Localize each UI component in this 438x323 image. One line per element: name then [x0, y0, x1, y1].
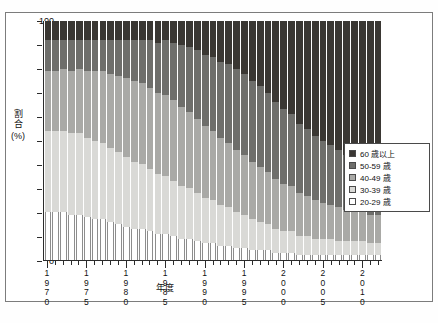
bar-1988	[186, 21, 193, 260]
bar-segment	[100, 219, 107, 260]
x-tick-mark	[347, 261, 348, 265]
bar-1995	[241, 21, 248, 260]
bar-segment	[225, 64, 232, 143]
x-tick-mark	[55, 261, 56, 265]
bar-segment	[249, 219, 256, 250]
bar-segment	[241, 215, 248, 248]
bar-segment	[233, 21, 240, 69]
bar-1994	[233, 21, 240, 260]
bar-segment	[320, 255, 327, 260]
x-tick-mark	[63, 261, 64, 265]
bar-segment	[359, 21, 366, 162]
bar-segment	[351, 210, 358, 241]
x-tick-digit: 5	[82, 298, 91, 308]
x-tick-digit: 5	[240, 298, 249, 308]
bar-segment	[170, 43, 177, 100]
bar-segment	[76, 133, 83, 214]
bar-2011	[367, 21, 374, 260]
bar-segment	[155, 93, 162, 174]
bar-segment	[375, 255, 382, 260]
bar-segment	[147, 88, 154, 169]
x-tick-mark	[331, 261, 332, 265]
bar-segment	[241, 74, 248, 155]
bar-segment	[123, 227, 130, 260]
x-tick-label: 1980	[121, 269, 130, 307]
bar-segment	[320, 21, 327, 141]
bar-segment	[257, 167, 264, 222]
bar-segment	[60, 21, 67, 40]
bar-segment	[147, 21, 154, 40]
x-tick-digit: 0	[358, 298, 367, 308]
bar-segment	[343, 21, 350, 155]
bar-segment	[100, 71, 107, 143]
bar-segment	[92, 141, 99, 220]
bar-segment	[296, 21, 303, 124]
legend-swatch-icon	[349, 198, 356, 205]
bar-segment	[115, 152, 122, 224]
x-tick-mark	[78, 261, 79, 265]
bar-segment	[139, 83, 146, 164]
bar-segment	[107, 222, 114, 260]
bottom-caption	[6, 310, 432, 323]
bar-segment	[68, 40, 75, 71]
bar-segment	[304, 129, 311, 196]
bar-segment	[84, 40, 91, 71]
x-tick-mark	[134, 261, 135, 265]
bar-segment	[170, 100, 177, 181]
x-tick-mark	[189, 261, 190, 265]
bar-segment	[288, 21, 295, 114]
bar-segment	[257, 86, 264, 167]
bar-segment	[131, 40, 138, 81]
bar-1972	[60, 21, 67, 260]
bar-segment	[155, 174, 162, 234]
legend-swatch-icon	[349, 162, 356, 169]
bar-segment	[202, 55, 209, 127]
bar-1970	[45, 21, 52, 260]
bar-2007	[335, 21, 342, 260]
y-axis-unit: (%)	[11, 131, 25, 141]
bar-2004	[312, 21, 319, 260]
x-tick-mark	[149, 261, 150, 265]
legend-item: 20-29 歳	[349, 196, 426, 207]
figure-page: 割合 (%) 0102030405060708090100 1970197519…	[0, 0, 438, 323]
y-tick-mark	[37, 117, 42, 118]
bar-segment	[233, 248, 240, 260]
x-tick-label: 1975	[82, 269, 91, 307]
bar-segment	[115, 76, 122, 152]
bar-2005	[320, 21, 327, 260]
legend-item: 40-49 歳	[349, 172, 426, 183]
x-tick-mark	[110, 261, 111, 265]
bar-segment	[52, 71, 59, 131]
bar-1989	[194, 21, 201, 260]
legend-item: 30-39 歳	[349, 184, 426, 195]
bar-segment	[202, 243, 209, 260]
bar-segment	[202, 126, 209, 198]
x-tick-mark	[173, 261, 174, 265]
bar-segment	[280, 184, 287, 232]
bar-segment	[296, 193, 303, 236]
bar-segment	[210, 57, 217, 131]
bar-segment	[327, 205, 334, 238]
bar-segment	[257, 21, 264, 86]
bar-segment	[68, 71, 75, 133]
x-tick-mark	[370, 261, 371, 265]
bar-segment	[123, 157, 130, 226]
legend-label: 20-29 歳	[360, 196, 391, 207]
x-tick-mark	[307, 261, 308, 265]
bar-segment	[210, 21, 217, 57]
legend-label: 60 歳以上	[360, 148, 395, 159]
bar-segment	[312, 255, 319, 260]
bar-segment	[162, 40, 169, 95]
bar-segment	[265, 172, 272, 225]
bar-segment	[320, 141, 327, 203]
bar-segment	[76, 215, 83, 260]
bar-segment	[233, 150, 240, 212]
bar-segment	[304, 255, 311, 260]
x-tick-mark	[339, 261, 340, 265]
y-axis-title-text: 割合	[14, 109, 23, 129]
plot-area	[43, 21, 382, 261]
x-tick-mark	[118, 261, 119, 265]
bar-segment	[115, 40, 122, 76]
bar-segment	[92, 219, 99, 260]
bar-segment	[60, 40, 67, 69]
